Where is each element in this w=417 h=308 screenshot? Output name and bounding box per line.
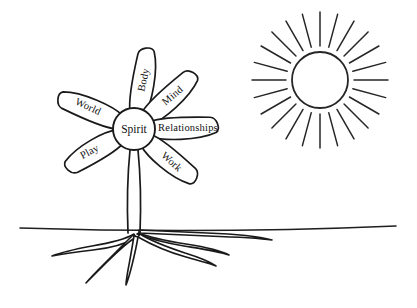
sun-disc bbox=[292, 52, 348, 108]
flower-and-sun-illustration: Spirit BodyMindRelationshipsWorkPlayWorl… bbox=[0, 0, 417, 308]
flower-center-label: Spirit bbox=[121, 123, 147, 136]
sun-icon bbox=[252, 12, 388, 148]
petal-label: Relationships bbox=[158, 122, 218, 133]
diagram-canvas: Spirit BodyMindRelationshipsWorkPlayWorl… bbox=[0, 0, 417, 308]
